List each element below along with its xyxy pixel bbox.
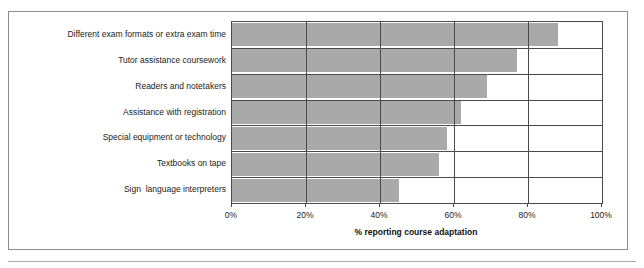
x-axis-tick-label: 20% xyxy=(285,210,325,220)
bar xyxy=(232,23,558,46)
x-axis-tick xyxy=(453,203,454,207)
x-axis-tick-label: 0% xyxy=(211,210,251,220)
category-axis-labels: Different exam formats or extra exam tim… xyxy=(19,21,226,202)
category-label: Readers and notetakers xyxy=(19,81,226,91)
plot-inner xyxy=(232,22,602,203)
x-axis-title: % reporting course adaptation xyxy=(231,227,601,237)
category-label: Tutor assistance coursework xyxy=(19,55,226,65)
value-gridline xyxy=(380,22,381,203)
category-label: Sign language interpreters xyxy=(19,184,226,194)
x-axis-tick-label: 40% xyxy=(359,210,399,220)
x-axis-tick-label: 100% xyxy=(581,210,621,220)
bar xyxy=(232,179,399,202)
bar xyxy=(232,127,447,150)
x-axis-tick xyxy=(305,203,306,207)
category-label: Textbooks on tape xyxy=(19,158,226,168)
value-gridline xyxy=(454,22,455,203)
value-gridline xyxy=(306,22,307,203)
x-axis-tick xyxy=(527,203,528,207)
x-axis-tick-label: 80% xyxy=(507,210,547,220)
bar xyxy=(232,75,487,98)
bar xyxy=(232,153,439,176)
x-axis-tick xyxy=(601,203,602,207)
value-gridline xyxy=(528,22,529,203)
x-axis-tick-label: 60% xyxy=(433,210,473,220)
bar-chart: Different exam formats or extra exam tim… xyxy=(9,12,629,251)
row-gridline xyxy=(232,125,602,126)
bar xyxy=(232,101,461,124)
bar xyxy=(232,49,517,72)
category-label: Different exam formats or extra exam tim… xyxy=(19,29,226,39)
category-label: Special equipment or technology xyxy=(19,132,226,142)
footer-divider xyxy=(8,261,636,262)
x-axis-tick xyxy=(379,203,380,207)
plot-area xyxy=(231,21,603,204)
category-label: Assistance with registration xyxy=(19,107,226,117)
figure-frame: Different exam formats or extra exam tim… xyxy=(8,11,628,250)
x-axis-tick xyxy=(231,203,232,207)
